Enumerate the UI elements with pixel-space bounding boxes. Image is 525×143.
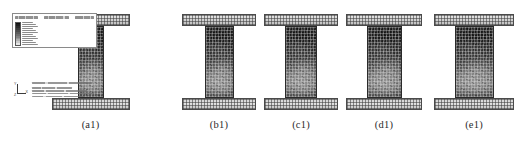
abaqus-contour-legend	[12, 13, 97, 48]
legend-body	[15, 22, 94, 47]
legend-swatch-12	[16, 43, 20, 45]
i-beam-mesh	[342, 8, 426, 118]
footer-text-line-3	[32, 90, 87, 92]
coordinate-triad-icon: Y X Z	[14, 83, 27, 98]
panel-caption: (b1)	[178, 119, 260, 130]
top-flange-mesh	[264, 14, 338, 26]
legend-title-segment-1	[15, 16, 38, 18]
footer-text-line-4	[32, 93, 94, 95]
panel-caption: (c1)	[260, 119, 342, 130]
triad-x-label: X	[26, 91, 28, 95]
web-mesh-layer	[286, 27, 316, 97]
figure-canvas: (a1)(b1)(c1)(d1)(e1) Y X Z	[0, 0, 525, 143]
footer-text-line-5	[32, 96, 84, 98]
web-contour-mesh	[455, 26, 494, 98]
web-contour-mesh	[367, 26, 402, 98]
abaqus-viewport-footer: Y X Z	[14, 82, 98, 108]
footer-text-line-2	[32, 87, 72, 89]
panel-caption: (d1)	[342, 119, 426, 130]
specimen-panel-5: (e1)	[426, 0, 522, 143]
panel-caption: (e1)	[426, 119, 522, 130]
specimen-panel-3: (c1)	[260, 0, 342, 143]
bottom-flange-mesh	[346, 98, 422, 110]
panel-caption: (a1)	[3, 119, 178, 130]
footer-text-line-1	[32, 82, 92, 84]
legend-title-segment-3	[75, 16, 94, 18]
specimen-panel-4: (d1)	[342, 0, 426, 143]
web-contour-mesh	[205, 26, 234, 98]
triad-y-label: Y	[14, 83, 16, 87]
legend-value-labels	[22, 22, 39, 47]
bottom-flange-mesh	[434, 98, 514, 110]
web-mesh-layer	[368, 27, 401, 97]
triad-z-label: Z	[14, 94, 16, 98]
i-beam-mesh	[426, 8, 522, 118]
bottom-flange-mesh	[264, 98, 338, 110]
specimen-panel-2: (b1)	[178, 0, 260, 143]
i-beam-mesh	[178, 8, 260, 118]
legend-value-label-12	[22, 44, 38, 45]
legend-title-segment-2	[44, 16, 69, 18]
web-mesh-layer	[456, 27, 493, 97]
legend-color-bar	[15, 22, 21, 47]
top-flange-mesh	[434, 14, 514, 26]
web-contour-mesh	[285, 26, 317, 98]
web-mesh-layer	[206, 27, 233, 97]
legend-header	[15, 16, 94, 20]
i-beam-mesh	[260, 8, 342, 118]
top-flange-mesh	[182, 14, 256, 26]
footer-text-block	[32, 82, 98, 97]
top-flange-mesh	[346, 14, 422, 26]
bottom-flange-mesh	[182, 98, 256, 110]
